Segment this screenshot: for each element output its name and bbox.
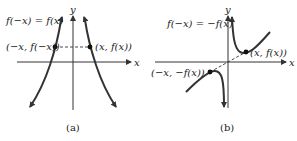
y-axis-label: y (69, 4, 76, 15)
panel-caption: (b) (220, 122, 234, 133)
point-left (208, 70, 213, 75)
x-axis-label: x (134, 57, 140, 68)
x-axis-label: x (289, 57, 295, 68)
point-right (244, 50, 249, 55)
point-right-label: (x, f(x)) (95, 41, 132, 52)
curve-left-branch (30, 20, 61, 107)
symmetry-diagram: x y f(−x) = f(x) (−x, f(−x)) (x, f(x)) (… (0, 0, 297, 141)
equation-label: f(−x) = f(x) (5, 15, 64, 26)
point-right (88, 45, 93, 50)
panel-a-even-function: x y f(−x) = f(x) (−x, f(−x)) (x, f(x)) (… (5, 4, 140, 133)
panel-b-odd-function: x y f(−x) = −f(x) (x, f(x)) (−x, −f(x)) … (151, 4, 295, 133)
panel-caption: (a) (66, 122, 80, 133)
curve-right-branch (85, 20, 116, 107)
y-axis-label: y (224, 4, 231, 15)
equation-label: f(−x) = −f(x) (166, 18, 233, 29)
point-right-label: (x, f(x)) (250, 47, 287, 58)
point-left-label: (−x, −f(x)) (151, 67, 205, 78)
point-left-label: (−x, f(−x)) (6, 41, 60, 52)
